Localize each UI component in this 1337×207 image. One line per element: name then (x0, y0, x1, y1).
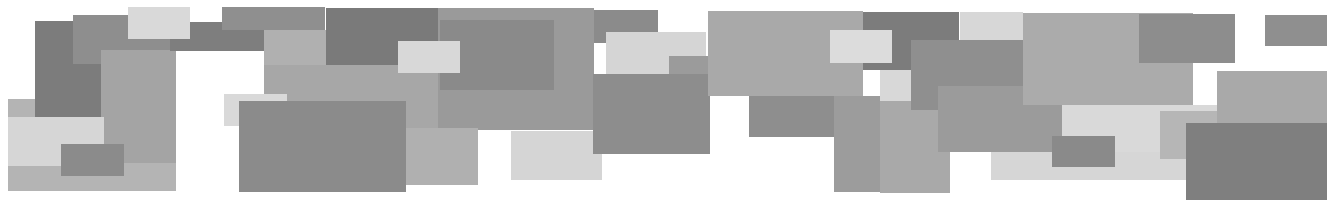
gray-rectangle (1052, 136, 1115, 167)
gray-rectangle (1265, 15, 1327, 46)
gray-rectangle (593, 74, 710, 154)
gray-rectangle (830, 30, 892, 63)
gray-rectangle (669, 56, 709, 76)
gray-rectangle (406, 128, 478, 185)
gray-rectangle (398, 41, 460, 73)
gray-rectangle (1217, 71, 1327, 123)
gray-rectangle (128, 7, 190, 39)
gray-rectangle (960, 12, 1023, 40)
abstract-rectangle-artwork (0, 0, 1337, 207)
gray-rectangle (511, 131, 602, 180)
gray-rectangle (239, 101, 406, 192)
gray-rectangle (222, 7, 325, 30)
gray-rectangle (1139, 14, 1235, 63)
gray-rectangle (1186, 123, 1327, 200)
gray-rectangle (61, 144, 124, 176)
